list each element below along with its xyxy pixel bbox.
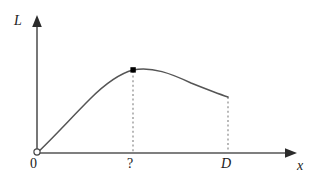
y-axis-label: L	[14, 14, 22, 28]
chart-plot-area	[0, 0, 314, 183]
x-tick-label-endpoint: D	[221, 157, 231, 171]
x-axis-label: x	[297, 159, 303, 173]
maximum-point-marker	[130, 67, 135, 72]
y-axis-arrowhead	[32, 15, 42, 27]
origin-point-marker	[34, 149, 40, 155]
chart-figure: L x 0 ? D	[0, 0, 314, 183]
x-tick-label-question: ?	[127, 157, 133, 171]
x-axis-arrowhead	[285, 148, 297, 158]
x-tick-label-origin: 0	[30, 157, 37, 171]
